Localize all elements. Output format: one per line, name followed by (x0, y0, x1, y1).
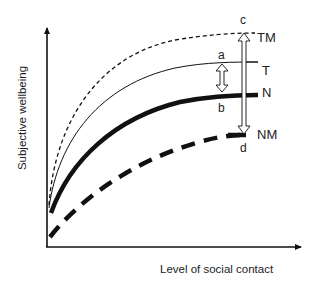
label-n: N (262, 85, 271, 100)
point-b: b (218, 101, 225, 115)
point-a: a (218, 48, 225, 62)
point-d: d (240, 141, 247, 155)
curve-nm (50, 135, 244, 237)
arrow-c-d (238, 33, 250, 134)
y-axis-label: Subjective wellbeing (16, 66, 28, 170)
wellbeing-diagram: TM T N NM a b c d Level of social contac… (0, 0, 317, 283)
arrow-a-b (216, 64, 228, 92)
curve-n (51, 95, 258, 213)
point-c: c (240, 13, 246, 27)
label-tm: TM (257, 30, 276, 45)
x-axis-label: Level of social contact (160, 263, 274, 275)
label-nm: NM (257, 127, 277, 142)
label-t: T (262, 63, 270, 78)
